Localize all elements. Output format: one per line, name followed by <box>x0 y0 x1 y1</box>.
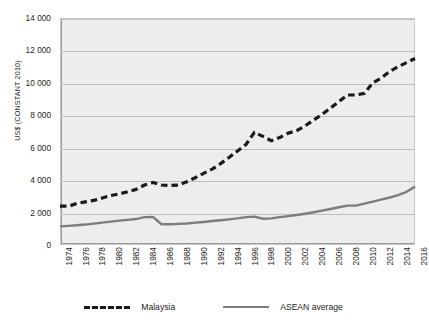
x-axis-tick-labels: 1974197619781980198219841986198819901992… <box>60 247 415 292</box>
x-axis-tick-label: 1994 <box>233 247 243 265</box>
x-axis-tick-label: 1990 <box>199 247 209 265</box>
x-axis-tick-label: 1976 <box>81 247 91 265</box>
x-axis-tick-label: 1982 <box>131 247 141 265</box>
legend-swatch-dashed <box>84 306 130 309</box>
chart-legend: MalaysiaASEAN average <box>0 296 427 318</box>
y-axis-tick-label: 0 <box>46 240 51 250</box>
y-axis-tick-label: 2 000 <box>30 208 51 218</box>
y-axis-tick-label: 10 000 <box>26 78 51 88</box>
x-axis-tick-label: 2012 <box>385 247 395 265</box>
x-axis-tick-label: 1986 <box>165 247 175 265</box>
x-axis-tick-label: 1992 <box>216 247 226 265</box>
legend-swatch-solid <box>223 306 269 308</box>
series-layer <box>60 18 415 245</box>
x-axis-tick-label: 2010 <box>368 247 378 265</box>
legend-item[interactable]: Malaysia <box>84 302 175 312</box>
y-axis-tick-labels: 02 0004 0006 0008 00010 00012 00014 000 <box>0 18 56 245</box>
x-axis-tick-label: 2014 <box>402 247 412 265</box>
x-axis-tick-label: 2004 <box>317 247 327 265</box>
x-axis-tick-label: 1984 <box>148 247 158 265</box>
y-axis-tick-label: 14 000 <box>26 13 51 23</box>
series-line-asean-average <box>60 187 415 227</box>
y-axis-tick-label: 8 000 <box>30 110 51 120</box>
x-axis-tick-label: 2008 <box>351 247 361 265</box>
y-axis-tick-label: 6 000 <box>30 143 51 153</box>
x-axis-tick-label: 2006 <box>334 247 344 265</box>
y-axis-tick-label: 4 000 <box>30 175 51 185</box>
x-axis-tick-label: 2016 <box>419 247 429 265</box>
x-axis-tick-label: 1974 <box>64 247 74 265</box>
x-axis-tick-label: 1978 <box>97 247 107 265</box>
x-axis-tick-label: 1996 <box>250 247 260 265</box>
x-axis-tick-label: 2000 <box>283 247 293 265</box>
x-axis-tick-label: 2002 <box>300 247 310 265</box>
legend-label: ASEAN average <box>280 302 343 312</box>
y-axis-tick-label: 12 000 <box>26 45 51 55</box>
legend-label: Malaysia <box>141 302 175 312</box>
x-axis-tick-label: 1988 <box>182 247 192 265</box>
x-axis-tick-label: 1980 <box>114 247 124 265</box>
x-axis-tick-label: 1998 <box>266 247 276 265</box>
legend-item[interactable]: ASEAN average <box>223 302 343 312</box>
series-line-malaysia <box>60 59 415 207</box>
